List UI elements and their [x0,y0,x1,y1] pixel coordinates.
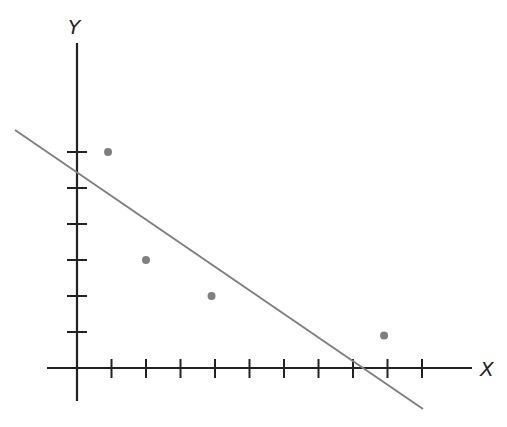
chart: Y X [0,0,507,427]
data-point [142,256,150,264]
data-point [208,292,216,300]
y-axis-label: Y [68,15,82,39]
data-point [380,332,388,340]
axes [47,43,472,401]
ticks [67,152,422,378]
data-point [104,148,112,156]
x-axis-label: X [479,357,495,381]
data-points [104,148,388,340]
